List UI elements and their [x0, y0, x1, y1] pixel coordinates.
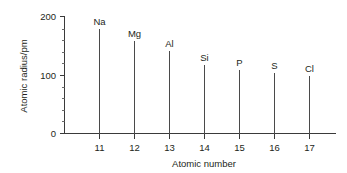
x-tick-label-17: 17 [304, 142, 315, 153]
y-axis-title: Atomic radius/pm [18, 39, 29, 112]
point-label-P: P [236, 57, 242, 68]
x-axis-title: Atomic number [172, 158, 236, 169]
y-axis-title-group: Atomic radius/pm [18, 39, 29, 112]
point-label-Si: Si [200, 52, 208, 63]
point-label-S: S [271, 60, 277, 71]
x-tick-label-14: 14 [199, 142, 210, 153]
chart-canvas: Atomic radius/pm 0 100 200 [0, 0, 347, 173]
x-tick-label-11: 11 [95, 142, 105, 153]
y-tick-label-100: 100 [40, 70, 56, 81]
y-axis: 0 100 200 [40, 11, 64, 139]
x-tick-label-13: 13 [164, 142, 175, 153]
x-tick-label-12: 12 [129, 142, 140, 153]
x-axis: 11 12 13 14 15 16 17 Atomic number [65, 134, 337, 170]
data-point-labels: Na Mg Al Si P S Cl [93, 16, 314, 74]
data-bars [100, 29, 310, 133]
y-tick-label-0: 0 [51, 128, 56, 139]
point-label-Cl: Cl [305, 63, 314, 74]
point-label-Na: Na [93, 16, 106, 27]
point-label-Mg: Mg [128, 28, 141, 39]
point-label-Al: Al [165, 38, 173, 49]
x-tick-label-15: 15 [234, 142, 245, 153]
x-tick-label-16: 16 [269, 142, 280, 153]
y-tick-label-200: 200 [40, 11, 56, 22]
atomic-radius-chart: Atomic radius/pm 0 100 200 [0, 0, 347, 173]
